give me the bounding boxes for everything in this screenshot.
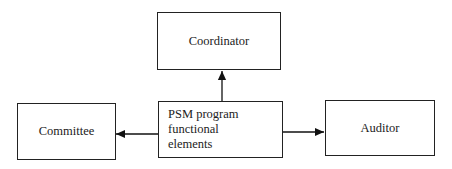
center-label-line1: PSM program functional [168, 107, 282, 137]
committee-box: Committee [17, 103, 116, 160]
committee-label: Committee [39, 124, 95, 139]
coordinator-label: Coordinator [189, 34, 249, 49]
auditor-box: Auditor [325, 100, 435, 156]
psm-functional-elements-box: PSM program functional elements [158, 101, 283, 158]
psm-functional-elements-label: PSM program functional elements [168, 107, 282, 152]
coordinator-box: Coordinator [157, 12, 281, 70]
auditor-label: Auditor [361, 121, 400, 136]
center-label-line2: elements [168, 137, 282, 152]
